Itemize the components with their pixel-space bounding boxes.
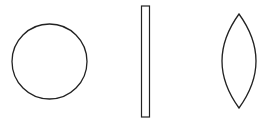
thin-rectangle-shape — [142, 6, 150, 117]
diagram-canvas — [0, 0, 262, 123]
circle-shape — [12, 24, 87, 99]
lens-shape — [222, 14, 256, 108]
